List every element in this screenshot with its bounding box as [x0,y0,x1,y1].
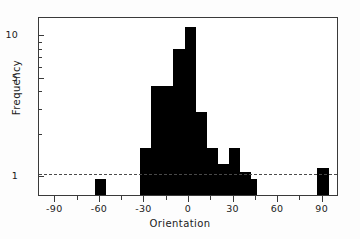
y-tick-label: 1 [12,170,18,181]
histogram-bar [317,168,328,195]
x-tick-label: -90 [34,203,74,214]
y-axis-title: Frequency [11,43,22,133]
y-tick-major [38,35,44,36]
y-tick-minor [38,42,42,43]
histogram-figure: 1510 -90-60-300306090 Orientation Freque… [0,0,360,239]
histogram-bar [185,27,196,195]
y-tick-major [38,78,44,79]
x-tick-major [277,196,278,202]
histogram-bar [240,172,251,195]
y-tick-major [38,176,44,177]
reference-line-y1 [39,174,337,175]
histogram-bar [218,164,229,195]
x-tick-label: -60 [79,203,119,214]
histogram-bar [229,148,240,195]
x-tick-minor [255,196,256,200]
x-tick-major [188,196,189,202]
x-tick-label: -30 [123,203,163,214]
y-tick-label: 10 [6,29,19,40]
y-tick-minor [38,49,42,50]
x-tick-minor [299,196,300,200]
histogram-bar [140,148,151,195]
x-tick-label: 60 [257,203,297,214]
x-axis-title: Orientation [0,218,360,229]
x-tick-major [322,196,323,202]
y-tick-minor [38,57,42,58]
histogram-bar [251,179,256,195]
histogram-bar [151,86,162,195]
plot-area [38,17,338,196]
x-tick-minor [121,196,122,200]
histogram-bar [95,179,106,195]
histogram-bar [196,112,207,195]
y-tick-minor [38,67,42,68]
x-tick-major [233,196,234,202]
x-tick-label: 30 [213,203,253,214]
y-tick-minor [38,134,42,135]
x-tick-label: 0 [168,203,208,214]
x-tick-minor [210,196,211,200]
y-tick-minor [38,109,42,110]
histogram-bar [162,86,173,195]
histogram-bar [207,148,218,195]
x-tick-label: 90 [302,203,342,214]
x-tick-minor [166,196,167,200]
y-tick-minor [38,91,42,92]
x-tick-major [143,196,144,202]
x-tick-minor [77,196,78,200]
x-tick-major [54,196,55,202]
x-tick-major [99,196,100,202]
